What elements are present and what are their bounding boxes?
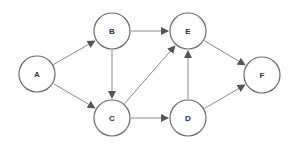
node-label: F bbox=[260, 71, 265, 80]
node-f: F bbox=[244, 57, 280, 93]
edge-e-to-f bbox=[204, 41, 244, 65]
edge-a-to-b bbox=[53, 41, 94, 65]
edges-layer bbox=[53, 31, 244, 118]
node-label: A bbox=[34, 70, 40, 79]
node-label: D bbox=[185, 114, 191, 123]
node-label: B bbox=[109, 27, 115, 36]
node-label: E bbox=[185, 27, 191, 36]
node-a: A bbox=[19, 56, 55, 92]
edge-a-to-c bbox=[53, 84, 94, 108]
node-b: B bbox=[94, 13, 130, 49]
node-e: E bbox=[170, 13, 206, 49]
node-d: D bbox=[170, 100, 206, 136]
directed-graph-diagram: ABCEDF bbox=[0, 0, 297, 152]
node-c: C bbox=[94, 100, 130, 136]
edge-c-to-e bbox=[124, 46, 174, 104]
edge-d-to-f bbox=[204, 85, 244, 108]
node-label: C bbox=[109, 114, 115, 123]
